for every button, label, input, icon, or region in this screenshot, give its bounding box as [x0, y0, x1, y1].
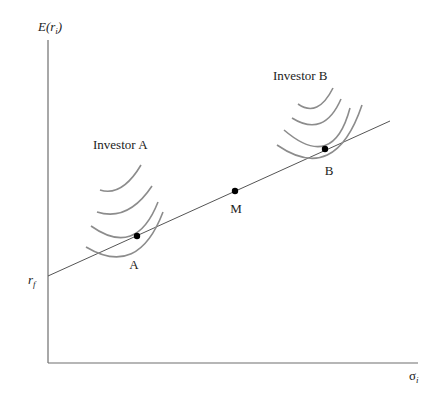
point-b-label: B: [325, 163, 334, 178]
investor-b-label: Investor B: [273, 68, 328, 83]
indifference-curve-b-1: [298, 88, 333, 108]
indifference-curve-b-2: [292, 99, 341, 125]
investor-a-indifference-curves: [86, 165, 163, 257]
risk-free-rate-label: rf: [28, 272, 37, 289]
investor-a-label: Investor A: [93, 137, 148, 152]
point-a-label: A: [129, 257, 139, 272]
point-a: [134, 233, 140, 239]
indifference-curve-a-3: [91, 202, 158, 238]
indifference-curve-a-1: [100, 165, 141, 191]
x-axis-label: σi: [409, 368, 419, 385]
indifference-curve-b-3: [284, 108, 350, 147]
investor-b-indifference-curves: [277, 88, 362, 158]
indifference-curve-a-4: [86, 212, 163, 257]
point-m-label: M: [230, 201, 242, 216]
indifference-curve-a-2: [97, 186, 152, 214]
cml-diagram: E(ri) σi rf Investor A Investor B A M B: [0, 0, 437, 393]
point-m: [232, 188, 238, 194]
y-axis-label: E(ri): [37, 19, 62, 36]
point-b: [322, 146, 328, 152]
